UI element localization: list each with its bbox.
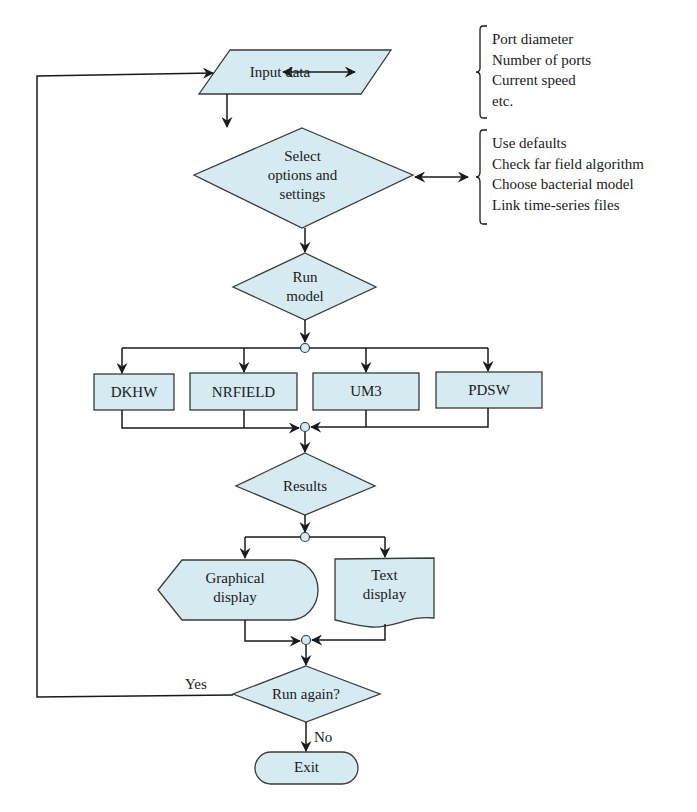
graphical-merge	[245, 620, 300, 641]
input-params-list: Port diameter Number of ports Current sp…	[492, 29, 591, 111]
merge-node	[301, 423, 310, 432]
options-list: Use defaults Check far field algorithm C…	[492, 133, 644, 215]
pdsw-label: PDSW	[436, 381, 542, 400]
no-label: No	[314, 728, 344, 747]
flowchart: Input data Select options and settings R…	[0, 0, 697, 812]
param-item: etc.	[492, 91, 591, 112]
option-item: Check far field algorithm	[492, 154, 644, 175]
param-item: Current speed	[492, 70, 591, 91]
exit-label: Exit	[255, 758, 358, 777]
input-params-brace	[476, 26, 487, 118]
option-item: Choose bacterial model	[492, 174, 644, 195]
merge-right	[311, 408, 488, 427]
display-split-node	[301, 533, 310, 542]
merge-left	[122, 410, 299, 428]
option-item: Link time-series files	[492, 195, 644, 216]
results-label: Results	[255, 477, 355, 496]
display-merge-node	[302, 636, 311, 645]
input-data-label: Input data	[230, 63, 330, 82]
param-item: Port diameter	[492, 29, 591, 50]
dkhw-label: DKHW	[94, 383, 174, 402]
option-item: Use defaults	[492, 133, 644, 154]
split-node	[301, 344, 310, 353]
text-display-label: Text display	[335, 566, 434, 604]
yes-label: Yes	[185, 675, 225, 694]
options-brace	[476, 130, 487, 224]
param-item: Number of ports	[492, 50, 591, 71]
run-again-label: Run again?	[246, 685, 366, 704]
select-options-label: Select options and settings	[245, 147, 360, 204]
graphical-display-label: Graphical display	[185, 569, 285, 607]
run-model-label: Run model	[260, 268, 350, 306]
nrfield-label: NRFIELD	[190, 383, 297, 402]
um3-label: UM3	[313, 382, 419, 401]
